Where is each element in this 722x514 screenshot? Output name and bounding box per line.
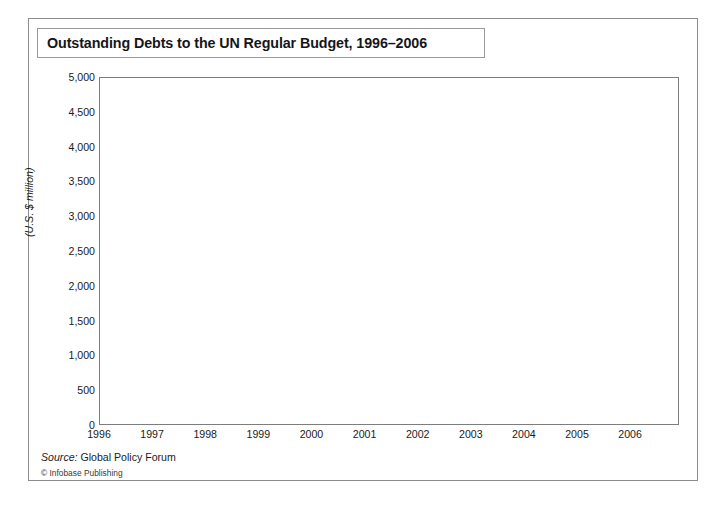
y-tick-label: 3,000 [68, 210, 95, 222]
y-tick-label: 1,000 [68, 349, 95, 361]
y-tick-label: 2,000 [68, 280, 95, 292]
y-tick-label: 4,500 [68, 106, 95, 118]
y-tick-label: 500 [77, 384, 95, 396]
x-tick-label: 2002 [406, 428, 430, 440]
publisher-credit: © Infobase Publishing [41, 468, 123, 478]
x-tick-label: 1999 [247, 428, 271, 440]
x-tick-label: 1998 [193, 428, 217, 440]
chart-title-box: Outstanding Debts to the UN Regular Budg… [37, 28, 485, 58]
figure-panel: Outstanding Debts to the UN Regular Budg… [28, 18, 698, 481]
x-tick-label: 2004 [512, 428, 536, 440]
source-name: Global Policy Forum [78, 451, 176, 463]
source-label: Source: [41, 451, 78, 463]
y-tick-label: 2,500 [68, 245, 95, 257]
x-tick-label: 2001 [353, 428, 377, 440]
x-tick-label: 2005 [565, 428, 589, 440]
x-tick-label: 2000 [300, 428, 324, 440]
x-tick-label: 1996 [87, 428, 111, 440]
x-tick-label: 2003 [459, 428, 483, 440]
y-axis-tick-labels: 05001,0001,5002,0002,5003,0003,5004,0004… [29, 77, 95, 425]
y-tick-label: 4,000 [68, 141, 95, 153]
x-tick-label: 1997 [140, 428, 164, 440]
y-tick-label: 3,500 [68, 175, 95, 187]
x-tick-label: 2006 [618, 428, 642, 440]
y-tick-label: 1,500 [68, 315, 95, 327]
x-axis-tick-labels: 1996199719981999200020012002200320042005… [99, 428, 679, 448]
plot-area [99, 77, 679, 425]
source-note: Source: Global Policy Forum [41, 451, 176, 463]
page-title: Outstanding Debts to the UN Regular Budg… [38, 35, 427, 51]
plot-frame-border [99, 77, 679, 425]
y-tick-label: 5,000 [68, 71, 95, 83]
